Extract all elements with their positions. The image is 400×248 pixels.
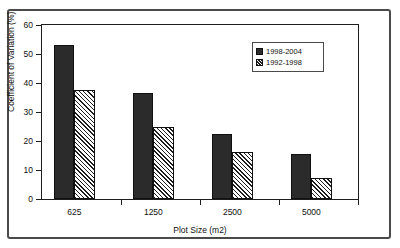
legend-swatch-icon	[256, 59, 263, 66]
y-axis-tick	[36, 83, 42, 84]
y-axis-tick-label: 20	[24, 136, 33, 146]
y-axis-tick	[36, 54, 42, 55]
y-axis-tick-label: 60	[24, 20, 33, 30]
bar-1998-2004-1250	[133, 93, 153, 199]
x-axis-tick-label: 2500	[223, 207, 242, 217]
y-axis-tick-label: 10	[24, 165, 33, 175]
legend-label: 1992-1998	[266, 59, 302, 67]
bar-1998-2004-625	[54, 45, 74, 199]
y-axis-tick	[36, 170, 42, 171]
bar-1998-2004-5000	[291, 154, 311, 199]
x-axis-title: Plot Size (m2)	[42, 225, 358, 235]
x-axis-tick	[121, 199, 122, 205]
x-axis-tick	[279, 199, 280, 205]
y-axis-tick-label: 50	[24, 49, 33, 59]
x-axis-tick-label: 1250	[144, 207, 163, 217]
y-axis-tick	[36, 141, 42, 142]
bar-1992-1998-1250	[153, 127, 173, 199]
x-axis-tick	[200, 199, 201, 205]
bar-1992-1998-5000	[311, 178, 331, 199]
y-axis-title: Coefficient of Variation (%)	[6, 12, 16, 112]
x-axis-tick-label: 5000	[302, 207, 321, 217]
legend-swatch-icon	[256, 48, 263, 55]
y-axis-tick-label: 40	[24, 78, 33, 88]
y-axis-tick	[36, 112, 42, 113]
y-axis-tick-label: 30	[24, 107, 33, 117]
legend-item: 1998-2004	[256, 46, 319, 57]
bar-1998-2004-2500	[212, 134, 232, 199]
legend-item: 1992-1998	[256, 57, 319, 68]
legend-label: 1998-2004	[266, 48, 302, 56]
chart-legend: 1998-20041992-1998	[252, 42, 324, 72]
bar-1992-1998-2500	[232, 152, 252, 199]
y-axis-tick	[36, 25, 42, 26]
chart-figure: Coefficient of Variation (%) 01020304050…	[0, 0, 400, 248]
bar-1992-1998-625	[74, 90, 94, 199]
y-axis-tick	[36, 199, 42, 200]
x-axis-tick-label: 625	[67, 207, 81, 217]
x-axis-tick	[358, 199, 359, 205]
y-axis-tick-label: 0	[28, 194, 33, 204]
